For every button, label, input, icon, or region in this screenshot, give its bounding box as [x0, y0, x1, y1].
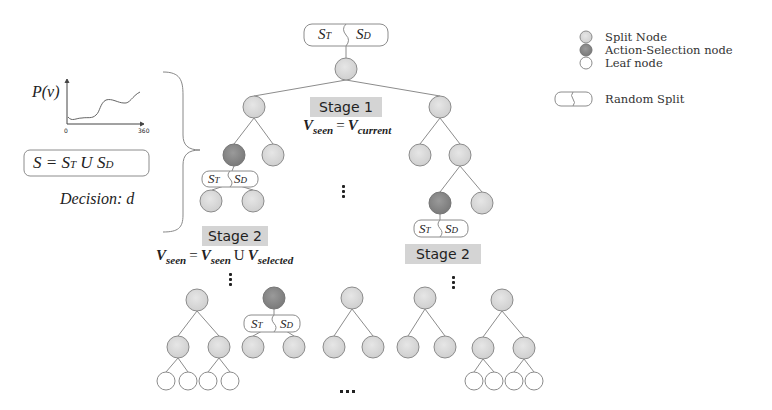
diagram-canvas: ST SD ST SD ST SD ST SD Stage 1 Vseen=Vc…	[0, 0, 772, 410]
split-node-legend-icon	[580, 31, 592, 43]
vertical-ellipsis-2	[229, 273, 232, 288]
random-split-box-top	[304, 24, 388, 46]
legend-random-split: Random Split	[605, 92, 684, 106]
stage-2-right-label: Stage 2	[405, 244, 481, 264]
plot-x-max: 360	[138, 127, 149, 134]
legend-leaf-node: Leaf node	[605, 56, 663, 70]
split-bottom-left-label: ST	[251, 316, 263, 332]
stage-2-left-label: Stage 2	[202, 226, 268, 246]
split-right-left-label: ST	[419, 221, 431, 237]
plot-x-min: 0	[64, 127, 68, 134]
action-node-legend-icon	[580, 44, 592, 56]
split-right-right-label: SD	[445, 221, 458, 237]
vertical-ellipsis-3	[452, 276, 455, 291]
stage-1-equation: Vseen=Vcurrent	[303, 117, 391, 136]
legend-split-node: Split Node	[605, 30, 667, 44]
set-equation-text: S = ST U SD	[33, 153, 113, 173]
curly-brace	[163, 72, 200, 232]
plot-y-label: P(v)	[32, 83, 60, 101]
stage-1-label: Stage 1	[310, 97, 382, 117]
legend-icons	[555, 31, 592, 106]
split-left-left-label: ST	[208, 171, 220, 187]
leaf-node-legend-icon	[580, 57, 592, 69]
legend-action-node: Action-Selection node	[605, 43, 733, 57]
horizontal-ellipsis	[340, 378, 358, 381]
split-top-right-label: SD	[356, 26, 371, 43]
stage-2-equation: Vseen=VseenUVselected	[156, 247, 293, 266]
vertical-ellipsis-1	[342, 185, 345, 200]
decision-label: Decision: d	[60, 190, 134, 208]
split-bottom-right-label: SD	[280, 316, 293, 332]
probability-plot	[65, 79, 144, 126]
split-left-right-label: SD	[234, 171, 247, 187]
split-top-left-label: ST	[318, 26, 331, 43]
